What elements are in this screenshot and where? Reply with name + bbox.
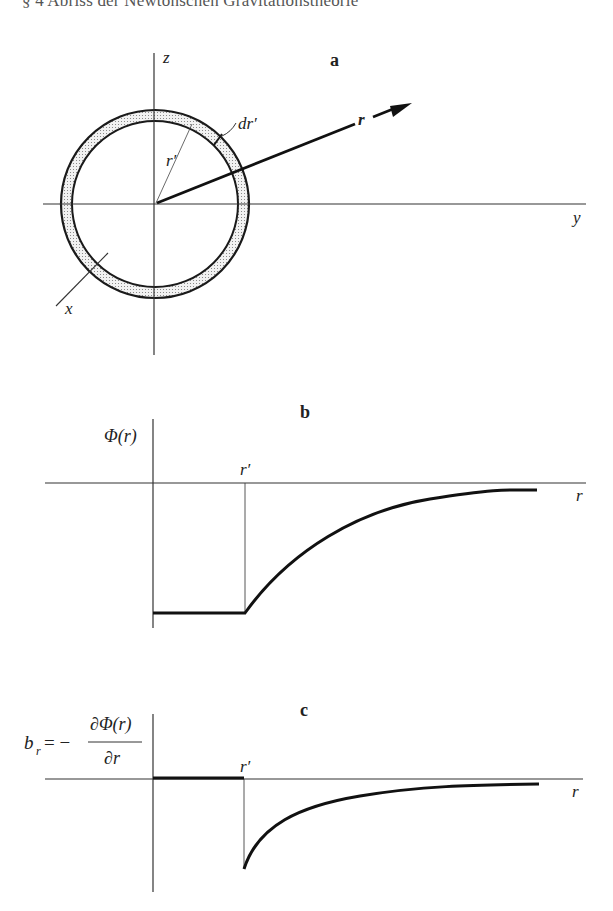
panel-a-label: a [330, 50, 339, 70]
c-shell-label: r′ [240, 757, 251, 776]
panel-a: a z y x r′ dr′ r [43, 48, 586, 355]
c-r-axis-label: r [572, 782, 579, 801]
radius-label: r′ [166, 151, 177, 170]
figure-canvas: a z y x r′ dr′ r b Φ(r) r′ r [0, 0, 613, 911]
panel-c-label: c [300, 700, 308, 720]
potential-axis-label: Φ(r) [104, 426, 137, 447]
field-axis-label-sub: r [36, 744, 41, 758]
thickness-leader [222, 123, 236, 136]
arrowhead-icon [390, 103, 412, 117]
y-axis-label: y [571, 208, 581, 227]
b-shell-label: r′ [240, 460, 251, 479]
potential-curve [153, 490, 537, 613]
field-axis-label-eq: = − [44, 732, 70, 753]
field-curve [244, 784, 539, 869]
field-axis-label-den: ∂r [104, 748, 121, 768]
field-axis-label-b: b [24, 732, 34, 753]
panel-b-label: b [300, 402, 310, 422]
vector-label: r [358, 110, 365, 129]
z-axis-label: z [162, 48, 170, 67]
panel-c: c b r = − ∂Φ(r) ∂r r′ r [24, 700, 583, 892]
b-r-axis-label: r [576, 486, 583, 505]
panel-b: b Φ(r) r′ r [45, 402, 586, 628]
x-axis-label: x [64, 299, 73, 318]
thickness-label: dr′ [238, 114, 257, 133]
field-axis-label-num: ∂Φ(r) [90, 714, 132, 735]
